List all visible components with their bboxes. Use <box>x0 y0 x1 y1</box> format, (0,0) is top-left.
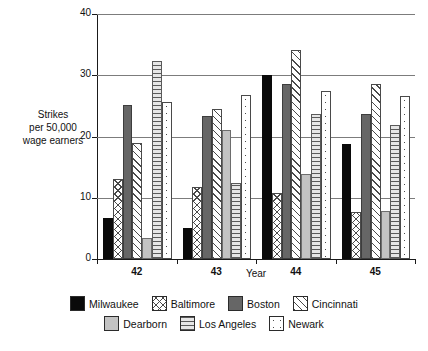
bar-cincinnati-44 <box>291 50 301 259</box>
legend-label: Cincinnati <box>312 298 358 310</box>
legend-item-baltimore[interactable]: Baltimore <box>152 296 215 311</box>
bar-baltimore-44 <box>272 193 282 259</box>
legend-item-cincinnati[interactable]: Cincinnati <box>293 296 358 311</box>
legend-label: Boston <box>247 298 280 310</box>
x-axis-tick <box>256 259 257 264</box>
bar-dearborn-42 <box>142 238 152 259</box>
bar-baltimore-45 <box>351 212 361 259</box>
bar-milwaukee-45 <box>342 144 352 259</box>
bar-chart: Strikes per 50,000 wage earners 01020304… <box>0 0 428 351</box>
y-axis-title-line-1: Strikes <box>14 108 92 121</box>
legend-row-1: MilwaukeeBaltimoreBostonCincinnati <box>0 296 428 311</box>
legend-swatch-los-angeles <box>180 316 195 331</box>
gridline <box>97 14 415 15</box>
bar-dearborn-44 <box>301 174 311 259</box>
legend-label: Dearborn <box>123 318 167 330</box>
legend-label: Newark <box>288 318 324 330</box>
x-axis-tick <box>415 259 416 264</box>
legend-swatch-milwaukee <box>70 296 85 311</box>
legend-item-newark[interactable]: Newark <box>269 316 324 331</box>
bar-newark-43 <box>241 95 251 259</box>
bar-boston-44 <box>282 84 292 259</box>
legend-item-milwaukee[interactable]: Milwaukee <box>70 296 139 311</box>
legend-row-2: DearbornLos AngelesNewark <box>0 316 428 331</box>
bar-los-angeles-45 <box>390 125 400 259</box>
gridline <box>97 75 415 76</box>
y-axis-tick <box>92 137 97 138</box>
bar-los-angeles-43 <box>231 183 241 259</box>
legend-item-dearborn[interactable]: Dearborn <box>104 316 167 331</box>
bar-newark-45 <box>400 96 410 259</box>
x-axis-tick <box>97 259 98 264</box>
bar-dearborn-43 <box>222 130 232 259</box>
legend-item-los-angeles[interactable]: Los Angeles <box>180 316 256 331</box>
bar-cincinnati-45 <box>371 84 381 259</box>
legend-label: Baltimore <box>171 298 215 310</box>
y-axis-title: Strikes per 50,000 wage earners <box>14 108 92 147</box>
bar-newark-44 <box>321 91 331 259</box>
legend-item-boston[interactable]: Boston <box>228 296 280 311</box>
bar-dearborn-45 <box>381 211 391 259</box>
y-axis-tick <box>92 198 97 199</box>
legend: MilwaukeeBaltimoreBostonCincinnati Dearb… <box>0 296 428 336</box>
legend-swatch-dearborn <box>104 316 119 331</box>
legend-swatch-boston <box>228 296 243 311</box>
x-axis-tick <box>177 259 178 264</box>
bar-newark-42 <box>162 102 172 259</box>
bar-baltimore-43 <box>192 187 202 259</box>
bar-milwaukee-42 <box>103 218 113 259</box>
bar-milwaukee-43 <box>183 228 193 259</box>
legend-swatch-cincinnati <box>293 296 308 311</box>
y-axis-tick <box>92 14 97 15</box>
bar-los-angeles-44 <box>311 114 321 259</box>
x-axis-title: Year <box>97 268 415 279</box>
bar-boston-43 <box>202 116 212 259</box>
x-axis-tick <box>336 259 337 264</box>
plot-area: 010203040 42434445 <box>97 14 415 259</box>
legend-label: Milwaukee <box>89 298 139 310</box>
bar-cincinnati-42 <box>132 143 142 259</box>
legend-swatch-baltimore <box>152 296 167 311</box>
y-axis-tick <box>92 75 97 76</box>
legend-swatch-newark <box>269 316 284 331</box>
bar-milwaukee-44 <box>262 75 272 259</box>
bar-boston-45 <box>361 114 371 259</box>
bar-boston-42 <box>123 105 133 259</box>
legend-label: Los Angeles <box>199 318 256 330</box>
bar-cincinnati-43 <box>212 109 222 259</box>
bar-los-angeles-42 <box>152 61 162 259</box>
bar-baltimore-42 <box>113 179 123 259</box>
